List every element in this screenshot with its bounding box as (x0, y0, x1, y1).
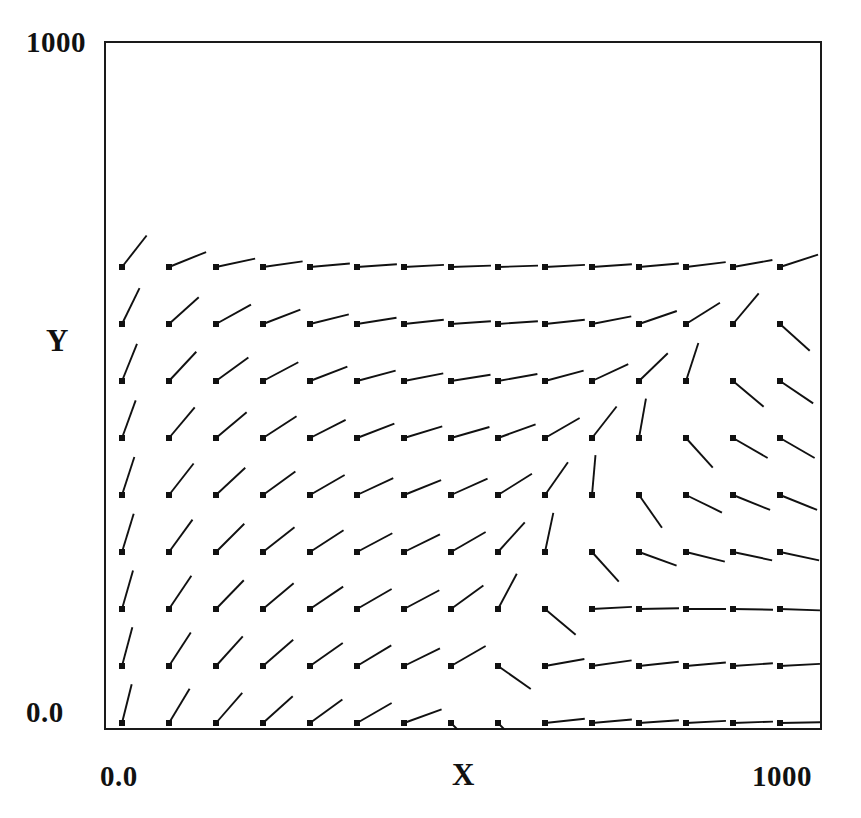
vector-shaft (404, 534, 440, 552)
vector-shaft (545, 320, 585, 324)
field-vector (401, 426, 442, 441)
vector-origin-marker (683, 720, 689, 726)
vector-shaft (169, 632, 191, 666)
vector-origin-marker (260, 549, 266, 555)
vector-shaft (686, 552, 725, 562)
vector-shaft (545, 371, 584, 381)
field-vector (166, 252, 206, 270)
field-vector (495, 474, 532, 498)
vector-shaft (733, 552, 772, 560)
field-vector (730, 293, 759, 327)
field-vector (589, 660, 632, 669)
vector-shaft (310, 367, 347, 381)
vector-shaft (592, 552, 619, 582)
field-vector (354, 645, 391, 669)
vector-shaft (686, 343, 698, 381)
vector-shaft (451, 479, 488, 495)
field-vector (307, 367, 347, 384)
field-vector (260, 640, 293, 669)
vector-origin-marker (636, 663, 642, 669)
vector-shaft (451, 321, 491, 324)
vector-shaft (592, 455, 595, 495)
field-vector (213, 357, 248, 384)
vector-shaft (451, 532, 486, 552)
field-vector (401, 264, 444, 270)
vector-origin-marker (777, 321, 783, 327)
y-axis-tick-top: 1000 (26, 26, 86, 59)
field-vector (448, 585, 483, 612)
field-vector (354, 424, 394, 441)
vector-origin-marker (401, 720, 407, 726)
vector-shaft (639, 264, 679, 267)
vector-shaft (780, 495, 817, 510)
field-vector (448, 264, 491, 270)
vector-origin-marker (448, 606, 454, 612)
field-vector (448, 427, 489, 441)
vector-shaft (122, 514, 134, 552)
vector-origin-marker (166, 264, 172, 270)
vector-shaft (310, 699, 342, 723)
vector-shaft (780, 722, 820, 723)
field-vector (119, 514, 134, 555)
vector-origin-marker (589, 492, 595, 498)
field-vector (777, 720, 820, 726)
vector-origin-marker (260, 606, 266, 612)
vector-origin-marker (213, 264, 219, 270)
vector-shaft (733, 381, 764, 407)
vector-origin-marker (213, 435, 219, 441)
field-vector (589, 455, 595, 498)
vector-origin-marker (119, 492, 125, 498)
vector-shaft (592, 660, 632, 666)
field-vector (401, 648, 440, 669)
field-vector (683, 435, 713, 468)
field-vector (166, 689, 190, 726)
vector-origin-marker (589, 606, 595, 612)
field-vector (119, 571, 133, 612)
vector-shaft (639, 353, 668, 381)
vector-origin-marker (542, 435, 548, 441)
vector-origin-marker (589, 435, 595, 441)
vector-shaft (498, 424, 536, 438)
vector-origin-marker (213, 492, 219, 498)
vector-origin-marker (354, 606, 360, 612)
vector-field-canvas (104, 41, 822, 730)
field-vector (636, 399, 646, 441)
vector-shaft (169, 463, 194, 495)
field-vector (119, 457, 134, 498)
field-vector (683, 343, 698, 384)
vector-shaft (639, 552, 677, 566)
vector-origin-marker (542, 492, 548, 498)
vector-origin-marker (401, 378, 407, 384)
field-vector (636, 264, 679, 270)
vector-origin-marker (401, 663, 407, 669)
vector-origin-marker (683, 492, 689, 498)
vector-origin-marker (448, 492, 454, 498)
x-axis-tick-left: 0.0 (100, 760, 138, 793)
field-vector (166, 352, 196, 384)
vector-shaft (686, 721, 726, 723)
vector-shaft (780, 552, 819, 560)
field-vector (307, 530, 344, 555)
vector-shaft (263, 310, 300, 324)
field-vector (777, 435, 815, 458)
vector-shaft (357, 645, 391, 666)
vector-origin-marker (448, 549, 454, 555)
vector-origin-marker (683, 549, 689, 555)
vector-origin-marker (495, 720, 501, 726)
vector-shaft (263, 640, 293, 666)
vector-shaft (357, 703, 392, 723)
field-vector (354, 589, 392, 612)
vector-origin-marker (401, 264, 407, 270)
field-vector (777, 378, 813, 403)
vector-origin-marker (401, 321, 407, 327)
vector-origin-marker (542, 321, 548, 327)
vector-origin-marker (448, 720, 454, 726)
vector-shaft (733, 260, 772, 267)
vector-shaft (263, 583, 294, 609)
vector-shaft (122, 235, 147, 267)
field-vector (307, 643, 343, 669)
vector-shaft (263, 362, 298, 381)
vector-origin-marker (260, 435, 266, 441)
field-vector (354, 371, 396, 384)
vector-shaft (451, 646, 486, 666)
